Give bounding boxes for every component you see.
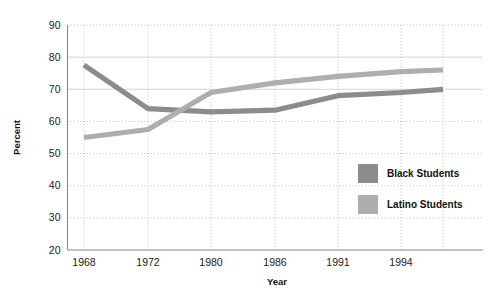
x-tick-label-1991: 1991 — [326, 256, 350, 268]
x-tick-label-1980: 1980 — [199, 256, 223, 268]
y-tick-label-50: 50 — [49, 147, 61, 159]
x-axis-title: Year — [267, 276, 287, 287]
y-tick-label-40: 40 — [49, 179, 61, 191]
y-tick-label-30: 30 — [49, 211, 61, 223]
legend-label-latino-students: Latino Students — [387, 199, 463, 210]
y-tick-label-20: 20 — [49, 244, 61, 256]
y-tick-label-80: 80 — [49, 51, 61, 63]
y-tick-label-90: 90 — [49, 19, 61, 31]
legend-swatch-latino-students — [358, 195, 378, 214]
legend-swatch-black-students — [358, 164, 378, 183]
x-tick-label-1994: 1994 — [389, 256, 413, 268]
legend-label-black-students: Black Students — [387, 168, 460, 179]
y-tick-label-70: 70 — [49, 83, 61, 95]
y-tick-label-60: 60 — [49, 115, 61, 127]
chart-canvas: 2030405060708090 19681972198019861991199… — [0, 0, 503, 302]
x-tick-label-1986: 1986 — [263, 256, 287, 268]
y-axis-title: Percent — [11, 119, 22, 155]
x-tick-label-1968: 1968 — [72, 256, 96, 268]
x-tick-label-1972: 1972 — [136, 256, 160, 268]
line-chart: 2030405060708090 19681972198019861991199… — [0, 0, 503, 302]
